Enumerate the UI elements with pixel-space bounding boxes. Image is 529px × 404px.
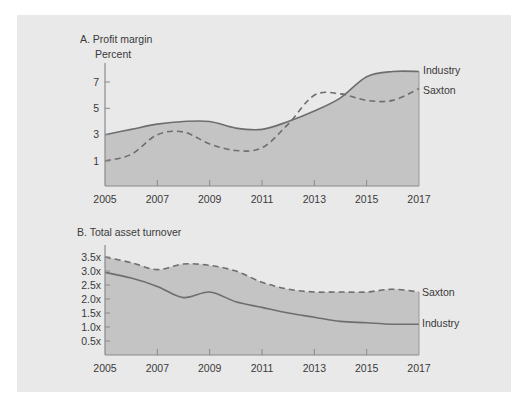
svg-text:2011: 2011 [251,362,274,374]
chart-a-title: A. Profit margin [80,33,153,45]
svg-text:2.5x: 2.5x [81,279,102,291]
chart-b-total-asset-turnover: B. Total asset turnover 0.5x1.0x1.5x2.0x… [77,226,460,374]
svg-text:2017: 2017 [407,193,431,205]
chart-b-title: B. Total asset turnover [77,226,182,238]
legend-industry: Industry [422,317,460,329]
svg-text:2011: 2011 [251,193,274,205]
svg-text:2015: 2015 [355,362,379,374]
chart-canvas: A. Profit margin Percent 135720052007200… [0,0,529,404]
svg-text:0.5x: 0.5x [81,335,102,347]
svg-text:2009: 2009 [198,193,222,205]
saxton-area [105,257,419,355]
svg-text:2005: 2005 [93,193,117,205]
svg-text:2005: 2005 [93,362,117,374]
industry-area [105,71,419,186]
svg-text:2017: 2017 [407,362,431,374]
chart-a-y-label: Percent [95,48,131,60]
svg-text:1.0x: 1.0x [81,321,102,333]
legend-saxton: Saxton [423,84,456,96]
svg-text:2.0x: 2.0x [81,293,102,305]
svg-text:7: 7 [93,76,99,88]
svg-text:1: 1 [93,155,99,167]
svg-text:5: 5 [93,102,99,114]
svg-text:2013: 2013 [303,362,327,374]
svg-text:3.5x: 3.5x [81,251,102,263]
svg-text:1.5x: 1.5x [81,307,102,319]
svg-text:2009: 2009 [198,362,222,374]
svg-text:2007: 2007 [146,193,170,205]
svg-text:2015: 2015 [355,193,379,205]
legend-saxton: Saxton [422,286,455,298]
chart-a-profit-margin: A. Profit margin Percent 135720052007200… [80,33,461,205]
svg-text:3: 3 [93,128,99,140]
svg-text:2007: 2007 [146,362,170,374]
legend-industry: Industry [423,64,461,76]
svg-text:3.0x: 3.0x [81,265,102,277]
svg-text:2013: 2013 [303,193,327,205]
